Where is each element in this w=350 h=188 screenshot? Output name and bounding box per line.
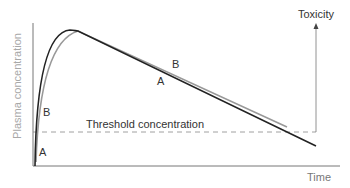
- curve-a: [35, 30, 316, 166]
- y-axis-label: Plasma concentration: [11, 33, 23, 139]
- x-axis-label: Time: [307, 171, 331, 183]
- toxicity-arrow-icon: [314, 23, 319, 29]
- threshold-label: Threshold concentration: [86, 119, 204, 130]
- curve-a-label-lower: A: [39, 147, 46, 158]
- toxicity-label: Toxicity: [298, 9, 334, 20]
- pk-diagram: [0, 0, 350, 188]
- curve-a-label-upper: A: [157, 76, 164, 87]
- curve-b-label-lower: B: [43, 107, 50, 118]
- curve-b-label-upper: B: [172, 59, 179, 70]
- curve-b: [36, 31, 287, 162]
